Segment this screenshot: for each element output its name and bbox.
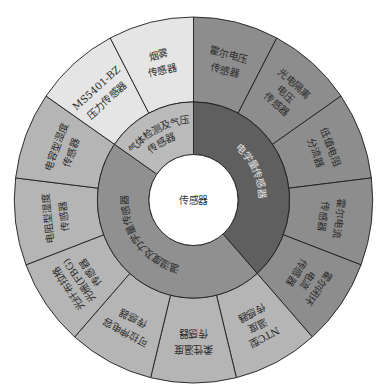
center-label: 传感器 [179,193,209,205]
sensor-label-line: 柔性温度 [174,344,214,356]
sunburst-rings: 霍尔电压传感器光电隔离电压传感器低值电阻分流器霍尔电流传感器霍尔闭环电流传感器N… [14,17,372,383]
sensor-sunburst-diagram: 霍尔电压传感器光电隔离电压传感器低值电阻分流器霍尔电流传感器霍尔闭环电流传感器N… [0,0,383,391]
sensor-label-line: 传感器 [179,328,209,340]
